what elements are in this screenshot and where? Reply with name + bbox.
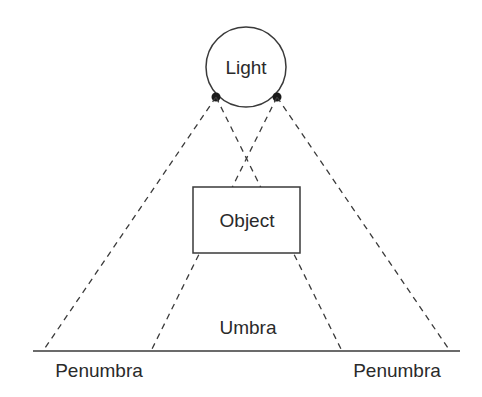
ray-left-outer	[43, 97, 216, 351]
penumbra-right-label: Penumbra	[353, 360, 441, 381]
umbra-label: Umbra	[219, 317, 276, 338]
penumbra-left-label: Penumbra	[55, 360, 143, 381]
ray-right-outer	[277, 97, 450, 351]
diagram-canvas: Light Object Umbra Penumbra Penumbra	[0, 0, 482, 397]
object-label: Object	[220, 210, 276, 231]
light-label: Light	[225, 57, 267, 78]
shadow-diagram: Light Object Umbra Penumbra Penumbra	[0, 0, 482, 397]
